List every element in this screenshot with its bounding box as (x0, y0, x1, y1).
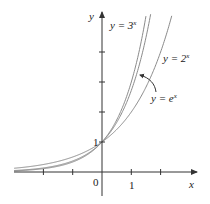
x-tick-label-1: 1 (129, 179, 135, 191)
x-axis-label: x (188, 178, 194, 190)
y-tick-label-1: 1 (93, 136, 99, 148)
exponential-functions-chart: y x 0 1 1 y = 3x y = 2x y = ex (0, 0, 210, 204)
curve-ex (14, 14, 151, 170)
label-3x: y = 3x (109, 19, 137, 31)
label-ex: y = ex (150, 92, 178, 104)
curve-3x (14, 16, 146, 171)
origin-label: 0 (93, 176, 99, 188)
y-axis-label: y (88, 10, 94, 22)
label-2x: y = 2x (162, 52, 190, 64)
